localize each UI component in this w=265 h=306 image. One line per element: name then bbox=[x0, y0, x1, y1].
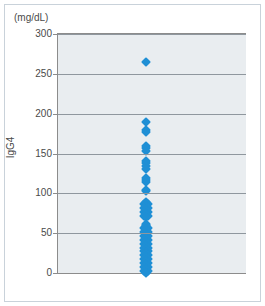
data-point bbox=[141, 57, 151, 67]
y-axis-title: IgG4 bbox=[5, 126, 16, 170]
y-axis-tick bbox=[53, 74, 58, 75]
y-axis-tick bbox=[53, 34, 58, 35]
plot-area bbox=[57, 33, 246, 274]
y-axis-tick-label: 250 bbox=[35, 67, 52, 78]
y-axis-tick bbox=[53, 233, 58, 234]
gridline bbox=[58, 193, 246, 194]
y-axis-tick bbox=[53, 154, 58, 155]
y-axis-tick-label: 200 bbox=[35, 107, 52, 118]
y-axis-tick-label: 50 bbox=[41, 227, 52, 238]
y-axis-tick-label: 300 bbox=[35, 28, 52, 39]
y-axis-tick-label: 100 bbox=[35, 187, 52, 198]
y-axis-tick-labels: 050100150200250300 bbox=[24, 33, 52, 272]
gridline bbox=[58, 34, 246, 35]
gridline bbox=[58, 114, 246, 115]
y-axis-tick-label: 0 bbox=[46, 267, 52, 278]
chart-figure: (mg/dL) IgG4 050100150200250300 bbox=[0, 0, 265, 306]
gridline bbox=[58, 233, 246, 234]
gridline bbox=[58, 154, 246, 155]
y-axis-tick bbox=[53, 273, 58, 274]
y-axis-tick-label: 150 bbox=[35, 147, 52, 158]
gridline bbox=[58, 74, 246, 75]
y-axis-tick bbox=[53, 193, 58, 194]
y-axis-tick bbox=[53, 114, 58, 115]
data-point bbox=[141, 186, 151, 196]
unit-label: (mg/dL) bbox=[14, 12, 48, 23]
